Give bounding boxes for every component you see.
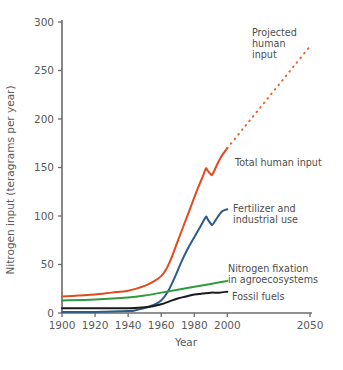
annotation-fossil-fuels: Fossil fuels bbox=[232, 291, 284, 302]
y-tick-label: 0 bbox=[47, 307, 54, 319]
annotation-line: in agroecosystems bbox=[228, 274, 318, 285]
annotation-line: Projected bbox=[252, 27, 297, 38]
annotation-line: input bbox=[252, 49, 277, 60]
y-tick-label: 300 bbox=[34, 16, 54, 28]
y-tick-label: 150 bbox=[34, 161, 54, 173]
annotation-line: Fossil fuels bbox=[232, 291, 284, 302]
nitrogen-input-chart-figure: 050100150200250300 190019201940196019802… bbox=[0, 0, 343, 370]
x-tick-label: 2050 bbox=[297, 319, 324, 331]
x-tick-label: 1900 bbox=[49, 319, 76, 331]
x-axis-title: Year bbox=[174, 336, 198, 348]
annotation-line: Nitrogen fixation bbox=[228, 263, 308, 274]
y-tick-label: 200 bbox=[34, 113, 54, 125]
chart-svg: 050100150200250300 190019201940196019802… bbox=[0, 0, 343, 370]
annotation-fertilizer-industrial-use: Fertilizer andindustrial use bbox=[233, 203, 298, 225]
y-tick-label: 250 bbox=[34, 64, 54, 76]
y-axis-title: Nitrogen input (teragrams per year) bbox=[4, 85, 16, 274]
annotation-line: Total human input bbox=[234, 157, 322, 168]
x-tick-label: 1920 bbox=[82, 319, 109, 331]
annotation-nitrogen-fixation-agroecosystems: Nitrogen fixationin agroecosystems bbox=[228, 263, 318, 285]
annotation-total-human-input: Total human input bbox=[234, 157, 322, 168]
annotation-line: Fertilizer and bbox=[233, 203, 296, 214]
y-tick-label: 100 bbox=[34, 210, 54, 222]
x-tick-label: 1940 bbox=[115, 319, 142, 331]
y-tick-label: 50 bbox=[41, 258, 54, 270]
x-tick-label: 2000 bbox=[214, 319, 241, 331]
annotation-line: industrial use bbox=[233, 214, 298, 225]
x-tick-label: 1960 bbox=[148, 319, 175, 331]
annotation-line: human bbox=[252, 38, 285, 49]
x-tick-label: 1980 bbox=[181, 319, 208, 331]
